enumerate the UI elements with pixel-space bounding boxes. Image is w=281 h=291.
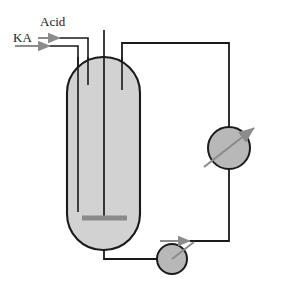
- exchanger-return-pipe: [186, 169, 229, 241]
- acid-label: Acid: [40, 14, 66, 29]
- process-flow-diagram: Acid KA: [0, 0, 281, 291]
- flow-diagram-container: Acid KA: [0, 0, 281, 291]
- vessel-bottom-outlet-pipe: [104, 250, 158, 259]
- bottom-margin-strip: [0, 277, 281, 291]
- ka-label: KA: [13, 30, 32, 45]
